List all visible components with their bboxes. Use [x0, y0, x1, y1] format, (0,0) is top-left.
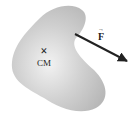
center-of-mass-marker: × — [41, 44, 48, 58]
force-label: F — [98, 31, 104, 42]
rigid-body-diagram: × CM → F — [0, 0, 133, 121]
center-of-mass-label: CM — [37, 58, 51, 68]
object-body — [12, 6, 106, 111]
